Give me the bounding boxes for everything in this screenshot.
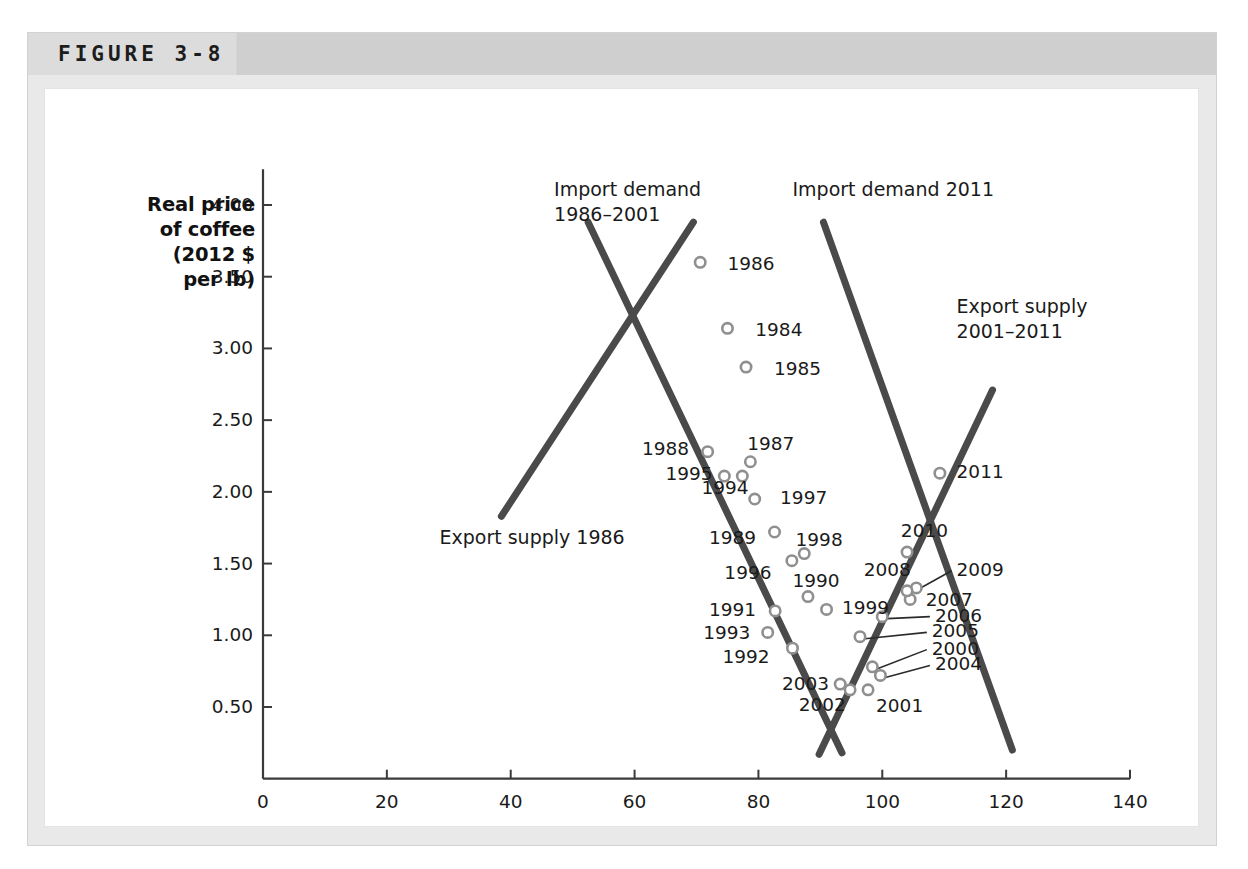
x-tick-label: 120 [976, 791, 1036, 812]
x-tick-label: 80 [728, 791, 788, 812]
data-point-1991[interactable] [770, 606, 780, 616]
leader-line-2004 [885, 665, 929, 677]
figure-number-label: FIGURE 3-8 [58, 42, 224, 66]
data-point-label-1998: 1998 [796, 529, 843, 550]
data-point-1990[interactable] [803, 591, 813, 601]
data-point-2005[interactable] [855, 632, 865, 642]
data-point-label-2004: 2004 [935, 653, 982, 674]
data-point-label-2002: 2002 [799, 694, 846, 715]
data-point-label-2001: 2001 [876, 695, 923, 716]
data-point-label-2009: 2009 [957, 559, 1004, 580]
data-point-label-1999: 1999 [842, 597, 889, 618]
data-point-label-1987: 1987 [747, 433, 794, 454]
data-point-label-1986: 1986 [727, 253, 774, 274]
x-tick-label: 60 [605, 791, 665, 812]
data-point-2000[interactable] [867, 662, 877, 672]
data-point-2004[interactable] [875, 670, 885, 680]
x-tick-label: 100 [852, 791, 912, 812]
curve-label-import-demand-1986-2001: Import demand1986–2001 [554, 177, 701, 227]
data-point-1985[interactable] [741, 362, 751, 372]
data-point-label-1993: 1993 [703, 622, 750, 643]
y-tick-label: 1.00 [191, 624, 253, 645]
y-tick-label: 3.00 [191, 337, 253, 358]
data-point-1989[interactable] [769, 527, 779, 537]
curve-label-import-demand-2011: Import demand 2011 [792, 177, 994, 202]
x-tick-label: 20 [357, 791, 417, 812]
y-tick-label: 4.00 [191, 194, 253, 215]
y-tick-label: 3.50 [191, 266, 253, 287]
figure-card: FIGURE 3-8 Real priceof coffee(2012 $per… [28, 33, 1216, 845]
data-point-label-1992: 1992 [723, 646, 770, 667]
y-tick-label: 0.50 [191, 696, 253, 717]
data-point-label-1995: 1995 [666, 463, 713, 484]
x-tick-label: 140 [1100, 791, 1160, 812]
y-tick-label: 2.50 [191, 409, 253, 430]
chart-plot-panel: Real priceof coffee(2012 $per lb) Quanti… [45, 89, 1198, 826]
x-tick-label: 0 [233, 791, 293, 812]
data-point-label-1990: 1990 [792, 570, 839, 591]
curve-label-export-supply-1986: Export supply 1986 [439, 525, 624, 550]
data-point-label-1997: 1997 [780, 487, 827, 508]
curve-label-export-supply-2001-2011: Export supply2001–2011 [957, 294, 1088, 344]
data-point-2010[interactable] [902, 547, 912, 557]
data-point-2011[interactable] [935, 468, 945, 478]
data-point-1996[interactable] [787, 556, 797, 566]
data-point-label-1989: 1989 [709, 527, 756, 548]
leader-line-2000 [877, 650, 926, 669]
data-point-2002[interactable] [845, 685, 855, 695]
data-point-1997[interactable] [750, 494, 760, 504]
curves-group [501, 222, 1012, 754]
data-point-label-2007: 2007 [926, 589, 973, 610]
data-point-1988[interactable] [702, 446, 712, 456]
data-point-1993[interactable] [763, 627, 773, 637]
data-point-1984[interactable] [722, 323, 732, 333]
y-tick-label: 2.00 [191, 481, 253, 502]
data-point-label-1996: 1996 [724, 562, 771, 583]
data-point-1992[interactable] [787, 643, 797, 653]
data-point-1999[interactable] [821, 604, 831, 614]
data-point-2009[interactable] [902, 586, 912, 596]
leader-line-2006 [887, 617, 930, 619]
data-point-2003[interactable] [835, 679, 845, 689]
data-point-label-2008: 2008 [864, 559, 911, 580]
data-point-label-2003: 2003 [782, 673, 829, 694]
data-point-1987[interactable] [745, 457, 755, 467]
y-tick-label: 1.50 [191, 553, 253, 574]
data-point-label-1984: 1984 [755, 319, 802, 340]
x-tick-label: 40 [481, 791, 541, 812]
data-point-1986[interactable] [695, 257, 705, 267]
data-point-label-1985: 1985 [774, 358, 821, 379]
data-point-2001[interactable] [863, 685, 873, 695]
data-point-label-1991: 1991 [709, 599, 756, 620]
data-point-1998[interactable] [799, 548, 809, 558]
data-point-label-2010: 2010 [901, 520, 948, 541]
data-point-label-1988: 1988 [642, 438, 689, 459]
data-point-label-2011: 2011 [957, 461, 1004, 482]
